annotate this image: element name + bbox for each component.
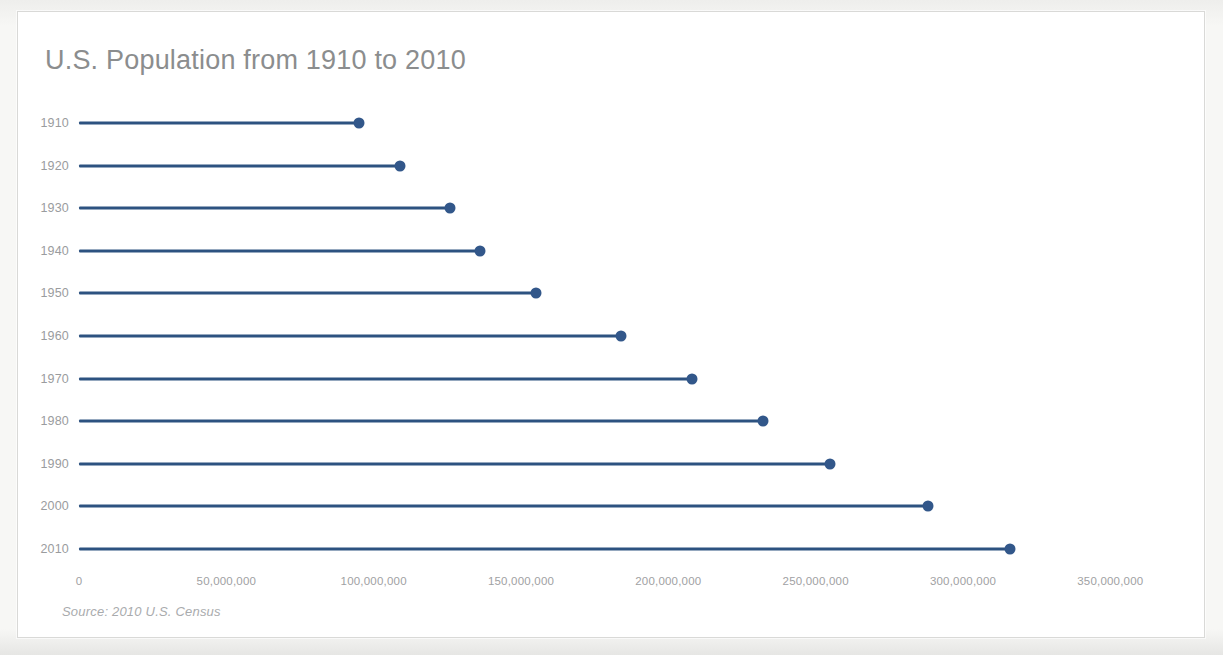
chart-frame: U.S. Population from 1910 to 2010 191019… [17,11,1205,638]
plot-area: 1910192019301940195019601970198019902000… [18,12,1206,639]
data-point-marker [353,118,364,129]
y-axis-tick-label: 1930 [40,201,69,215]
lollipop-stem [79,292,536,295]
x-axis-tick-label: 50,000,000 [197,575,257,587]
data-point-marker [922,501,933,512]
source-note: Source: 2010 U.S. Census [62,604,221,619]
data-point-marker [686,373,697,384]
lollipop-stem [79,548,1010,551]
data-point-marker [757,416,768,427]
lollipop-stem [79,249,480,252]
lollipop-stem [79,164,400,167]
x-axis-tick-label: 150,000,000 [488,575,554,587]
y-axis-tick-label: 1910 [40,116,69,130]
lollipop-stem [79,207,450,210]
data-point-marker [530,288,541,299]
y-axis-tick-label: 1990 [40,457,69,471]
x-axis-tick-label: 100,000,000 [341,575,407,587]
y-axis-tick-label: 1960 [40,329,69,343]
x-axis-tick-label: 250,000,000 [783,575,849,587]
lollipop-stem [79,377,692,380]
chart-page: U.S. Population from 1910 to 2010 191019… [0,0,1223,655]
lollipop-stem [79,335,621,338]
y-axis-tick-label: 1940 [40,244,69,258]
y-axis-tick-label: 1920 [40,159,69,173]
x-axis-tick-label: 0 [76,575,83,587]
data-point-marker [474,245,485,256]
data-point-marker [825,458,836,469]
data-point-marker [395,160,406,171]
data-point-marker [445,203,456,214]
y-axis-tick-label: 1970 [40,372,69,386]
y-axis-tick-label: 1950 [40,286,69,300]
y-axis-tick-label: 1980 [40,414,69,428]
data-point-marker [616,331,627,342]
x-axis-tick-label: 350,000,000 [1077,575,1143,587]
data-point-marker [1005,544,1016,555]
x-axis-tick-label: 300,000,000 [930,575,996,587]
lollipop-stem [79,462,830,465]
x-axis: 050,000,000100,000,000150,000,000200,000… [18,12,1206,639]
lollipop-stem [79,420,763,423]
lollipop-stem [79,122,359,125]
x-axis-tick-label: 200,000,000 [635,575,701,587]
lollipop-stem [79,505,928,508]
y-axis-tick-label: 2000 [40,499,69,513]
y-axis-tick-label: 2010 [40,542,69,556]
